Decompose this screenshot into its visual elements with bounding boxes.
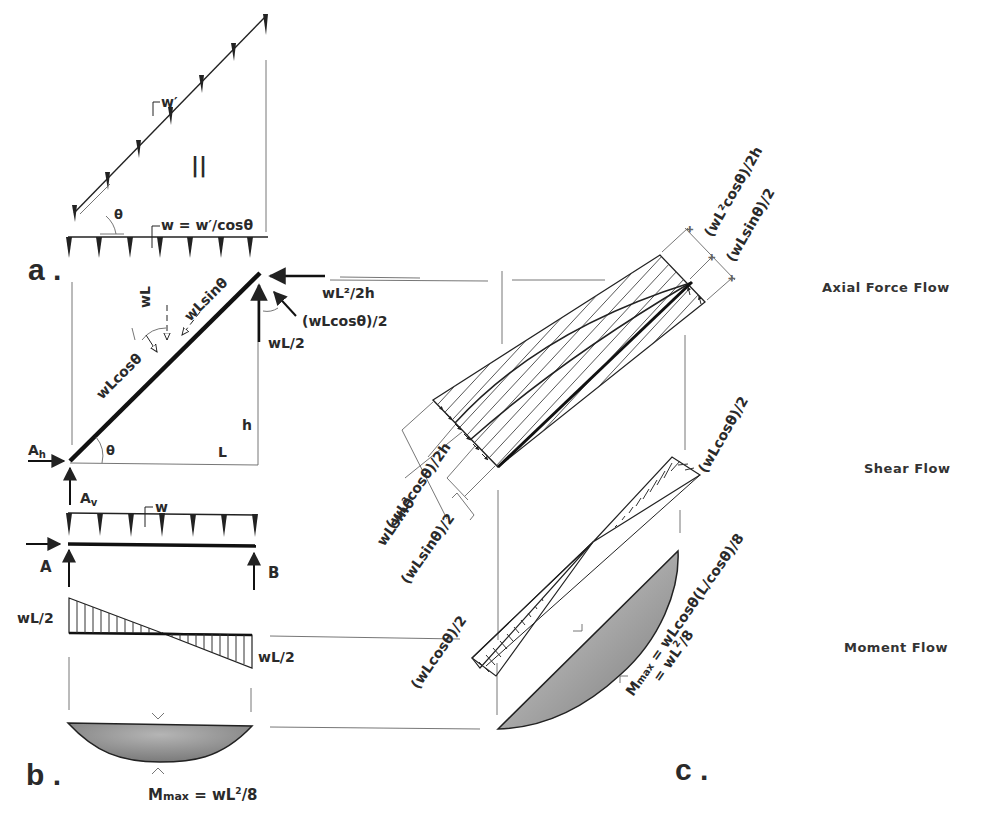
inclined-beam-fbd: h L θ wL wLsinθ wLcosθ wL²/2h wL/2 (wLco…	[28, 273, 420, 508]
support-b-label: B	[268, 564, 279, 582]
inclined-load-label: w′	[161, 94, 178, 110]
base-vertical-label: Av	[80, 490, 98, 508]
shear-diagram-b: wL/2 wL/2	[17, 598, 460, 712]
shear-left-label: wL/2	[17, 610, 54, 626]
theta-base-label: θ	[106, 443, 115, 458]
theta-top-label: θ	[114, 207, 123, 222]
equals-sign: ||	[191, 152, 207, 178]
support-a-label: A	[40, 558, 52, 576]
moment-diagram-b: Mmax = wL2/8	[68, 713, 480, 804]
axial-force-flow-label: Axial Force Flow	[822, 280, 950, 295]
inclined-load-arrows	[72, 14, 268, 222]
svg-text:+: +	[686, 224, 694, 234]
base-horizontal-label: Ah	[28, 442, 46, 460]
shear-right-label: wL/2	[258, 649, 295, 665]
panel-label-b: b .	[26, 758, 61, 791]
axial-bottom-label-3: (wLsinθ)/2	[397, 510, 457, 587]
shear-flow-label: Shear Flow	[864, 461, 950, 476]
wl-label: wL	[137, 286, 153, 308]
moment-flow-diagram-c	[498, 551, 678, 729]
moment-flow-label: Moment Flow	[844, 640, 948, 655]
span-label: L	[218, 444, 227, 460]
diagram-canvas: w′ || θ w = w′/cosθ a . h L θ	[0, 0, 986, 822]
wl-sin-label: wLsinθ	[181, 274, 231, 324]
shear-bottom-label: (wLcosθ)/2	[407, 613, 469, 692]
horizontal-load-diagram: w = w′/cosθ	[66, 217, 268, 258]
inclined-load-diagram: w′ || θ	[72, 14, 268, 234]
top-inclined-reaction-label: (wLcosθ)/2	[302, 313, 387, 329]
panel-label-c: c .	[675, 753, 708, 786]
top-vertical-reaction-label: wL/2	[268, 335, 305, 351]
horizontal-load-label: w = w′/cosθ	[161, 217, 253, 233]
top-horizontal-reaction-label: wL²/2h	[322, 285, 375, 301]
shear-top-label: (wLcosθ)/2	[695, 394, 752, 476]
moment-max-b-label: Mmax = wL2/8	[148, 786, 258, 804]
svg-text:+: +	[708, 252, 716, 262]
load-w-label: w	[155, 499, 168, 515]
height-label: h	[242, 417, 252, 433]
panel-label-a: a .	[28, 253, 61, 286]
horizontal-beam-fbd: w A B	[26, 499, 279, 590]
svg-text:+: +	[728, 273, 736, 283]
